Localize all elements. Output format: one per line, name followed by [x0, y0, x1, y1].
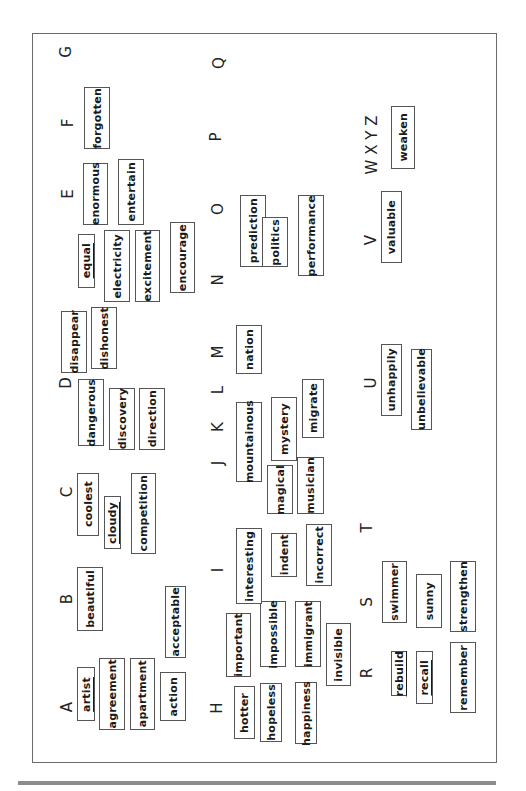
word-text: musician	[304, 457, 317, 514]
word-text: artist	[80, 677, 93, 712]
word-card-acceptable[interactable]: acceptable	[165, 586, 186, 658]
word-text: dishonest	[98, 307, 111, 369]
word-card-disappear[interactable]: disappear	[61, 311, 87, 373]
word-card-magical[interactable]: magical	[267, 465, 293, 514]
word-text: mystery	[278, 403, 291, 455]
letter-text: A	[58, 702, 76, 712]
word-text: politics	[269, 219, 282, 266]
letter-label-v: V	[363, 232, 379, 248]
word-card-important[interactable]: important	[226, 613, 251, 677]
word-text: migrate	[307, 383, 320, 433]
word-text: encourage	[176, 224, 189, 291]
word-card-valuable[interactable]: valuable	[381, 191, 402, 263]
word-card-entertain[interactable]: entertain	[118, 159, 144, 225]
word-card-musician[interactable]: musician	[297, 457, 324, 514]
word-text: indent	[278, 534, 291, 575]
letter-label-m: M	[210, 344, 226, 360]
letter-label-f: F	[60, 115, 76, 131]
word-card-dishonest[interactable]: dishonest	[91, 307, 117, 369]
word-card-forgotten[interactable]: forgotten	[84, 87, 110, 149]
letter-label-e: E	[60, 186, 76, 202]
word-text: magical	[274, 465, 287, 515]
word-card-direction[interactable]: direction	[139, 388, 165, 450]
word-card-enormous[interactable]: enormous	[83, 163, 108, 225]
word-card-politics[interactable]: politics	[262, 217, 288, 267]
word-card-electricity[interactable]: electricity	[104, 230, 130, 302]
word-card-impossible[interactable]: impossible	[260, 601, 286, 667]
letter-label-c: C	[59, 484, 75, 500]
word-card-beautiful[interactable]: beautiful	[77, 567, 103, 631]
word-card-cloudy[interactable]: cloudy	[104, 496, 121, 549]
word-card-immigrant[interactable]: immigrant	[295, 601, 321, 667]
word-text: equal	[80, 243, 93, 278]
word-card-competition[interactable]: competition	[131, 473, 156, 554]
word-card-encourage[interactable]: encourage	[170, 222, 195, 293]
word-card-hotter[interactable]: hotter	[234, 686, 255, 739]
word-card-invisible[interactable]: invisible	[326, 623, 351, 686]
word-card-agreement[interactable]: agreement	[99, 658, 125, 730]
word-text: important	[232, 613, 245, 677]
word-text: electricity	[111, 234, 124, 299]
word-card-apartment[interactable]: apartment	[130, 658, 155, 730]
word-card-indent[interactable]: indent	[271, 533, 297, 577]
word-card-nation[interactable]: nation	[236, 325, 262, 374]
word-card-mountainous[interactable]: mountainous	[236, 402, 262, 482]
letter-text: Q	[210, 57, 228, 69]
letter-text: S	[358, 597, 376, 607]
word-card-equal[interactable]: equal	[78, 234, 95, 288]
word-text: disappear	[68, 310, 81, 373]
letter-text: M	[209, 346, 227, 359]
word-card-recall[interactable]: recall	[416, 651, 433, 704]
word-card-discovery[interactable]: discovery	[109, 388, 135, 450]
word-text: forgotten	[91, 88, 104, 149]
letter-label-b: B	[59, 591, 75, 607]
word-text: interesting	[243, 531, 256, 602]
word-text: invisible	[332, 628, 345, 682]
letter-label-p: P	[208, 129, 224, 145]
word-card-action[interactable]: action	[160, 672, 186, 721]
word-text: dangerous	[85, 379, 98, 447]
word-card-rebuild[interactable]: rebuild	[391, 651, 407, 696]
word-text: sunny	[423, 582, 436, 620]
word-card-dangerous[interactable]: dangerous	[78, 379, 104, 446]
letter-label-a: A	[59, 699, 75, 715]
word-card-happiness[interactable]: happiness	[295, 682, 317, 744]
letter-text: H	[208, 702, 226, 713]
word-card-remember[interactable]: remember	[450, 642, 476, 713]
letter-text: F	[59, 119, 77, 128]
letter-text: B	[58, 594, 76, 604]
word-card-excitement[interactable]: excitement	[135, 230, 160, 302]
letter-text: W X Y Z	[363, 116, 381, 175]
word-card-unhappily[interactable]: unhappily	[381, 344, 402, 416]
word-text: entertain	[125, 162, 138, 222]
word-card-performance[interactable]: performance	[298, 195, 324, 276]
word-text: nation	[243, 329, 256, 370]
word-text: happiness	[300, 681, 313, 746]
word-card-sunny[interactable]: sunny	[416, 574, 442, 628]
word-card-strengthen[interactable]: strengthen	[450, 561, 476, 632]
page-divider	[18, 781, 496, 785]
letter-text: E	[59, 189, 77, 198]
word-text: immigrant	[302, 601, 315, 667]
letter-label-g: G	[58, 44, 74, 60]
word-text: competition	[137, 475, 150, 552]
letter-label-u: U	[363, 375, 379, 391]
word-text: excitement	[141, 230, 154, 302]
word-card-hopeless[interactable]: hopeless	[260, 683, 282, 742]
word-card-migrate[interactable]: migrate	[302, 379, 324, 438]
word-card-incorrect[interactable]: incorrect	[306, 524, 332, 586]
word-text: coolest	[82, 481, 95, 527]
letter-text: J	[209, 461, 227, 465]
word-text: beautiful	[84, 570, 97, 628]
word-card-unbelievable[interactable]: unbelievable	[411, 349, 432, 430]
word-card-artist[interactable]: artist	[77, 667, 95, 721]
word-card-coolest[interactable]: coolest	[77, 473, 99, 536]
word-text: acceptable	[169, 587, 182, 657]
word-text: incorrect	[313, 526, 326, 584]
word-card-weaken[interactable]: weaken	[391, 106, 415, 169]
word-card-swimmer[interactable]: swimmer	[382, 561, 407, 623]
word-card-mystery[interactable]: mystery	[271, 397, 297, 461]
letter-label-o: O	[210, 201, 226, 217]
letter-label-q: Q	[211, 55, 227, 71]
word-card-interesting[interactable]: interesting	[236, 528, 262, 604]
